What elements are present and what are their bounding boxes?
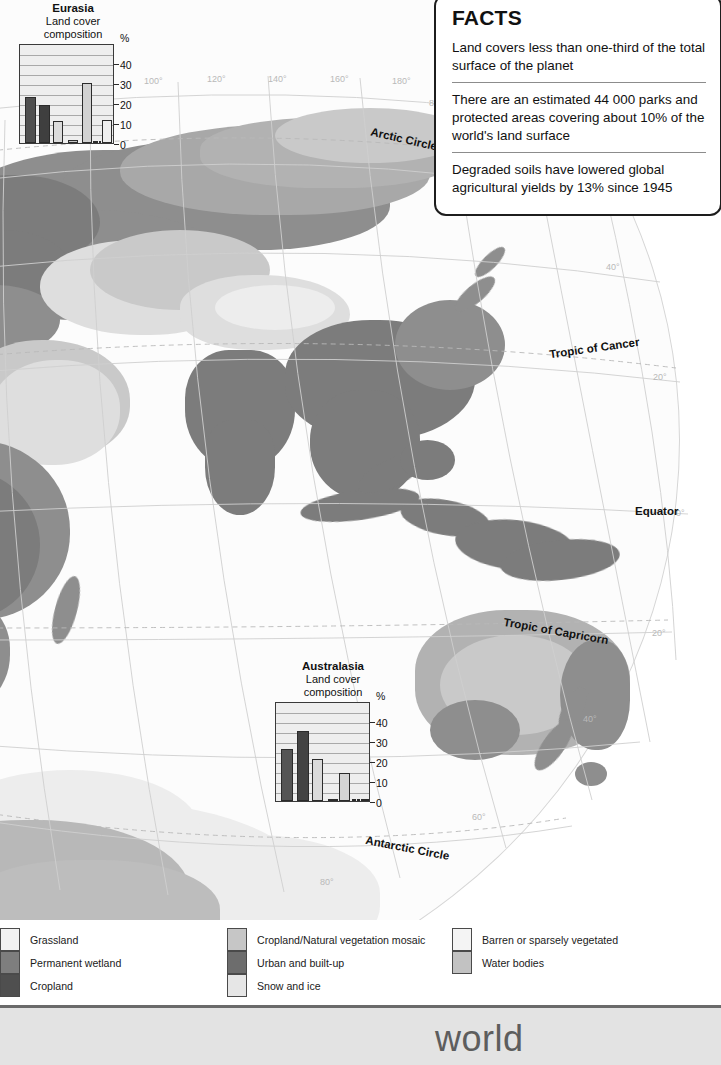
chart-eurasia-tick-40: 40 bbox=[120, 60, 132, 71]
bar-snow bbox=[352, 799, 356, 801]
chart-eurasia-subtitle-1: Land cover bbox=[12, 15, 134, 28]
bar-grassland bbox=[281, 749, 293, 801]
bar-wetland bbox=[39, 105, 50, 143]
page-root: 100° 120° 140° 160° 180° 80° 40° 20° 0° … bbox=[0, 0, 721, 1065]
bar-grassland bbox=[25, 97, 36, 143]
lon-label-100: 100° bbox=[144, 76, 163, 86]
legend-swatch-cropland-mosaic bbox=[227, 928, 247, 951]
chart-eurasia-tick-20: 20 bbox=[120, 100, 132, 111]
legend-swatch-cropland bbox=[0, 974, 20, 997]
bar-cropland bbox=[53, 121, 63, 143]
chart-australasia-tick-30: 30 bbox=[376, 738, 388, 749]
bar-mosaic bbox=[68, 140, 78, 143]
chart-eurasia-unit: % bbox=[120, 32, 129, 44]
chart-australasia-bars bbox=[276, 703, 369, 801]
lon-label-180: 180° bbox=[392, 76, 411, 86]
chart-australasia-title: Australasia bbox=[268, 660, 398, 673]
fact-item-2: There are an estimated 44 000 parks and … bbox=[452, 91, 706, 144]
chart-eurasia: Eurasia Land cover composition bbox=[12, 2, 134, 144]
chart-australasia: Australasia Land cover composition bbox=[268, 660, 398, 802]
legend-swatch-barren bbox=[452, 928, 472, 951]
bar-urban bbox=[82, 83, 92, 143]
lat-label-20s: 20° bbox=[652, 628, 666, 638]
page-footer: world bbox=[0, 1005, 721, 1065]
lat-label-20n: 20° bbox=[653, 372, 667, 382]
legend-item-water-bodies[interactable]: Water bodies bbox=[452, 951, 712, 974]
chart-australasia-tick-0: 0 bbox=[376, 798, 382, 809]
legend-label-barren: Barren or sparsely vegetated bbox=[482, 934, 618, 946]
chart-eurasia-tick-30: 30 bbox=[120, 80, 132, 91]
bar-urban bbox=[339, 773, 350, 801]
lat-label-40s: 40° bbox=[583, 714, 597, 724]
chart-australasia-tick-20: 20 bbox=[376, 758, 388, 769]
chart-australasia-subtitle-1: Land cover bbox=[268, 673, 398, 686]
legend-column-3: Barren or sparsely vegetated Water bodie… bbox=[452, 928, 712, 974]
chart-eurasia-tick-0: 0 bbox=[120, 140, 126, 151]
chart-eurasia-title: Eurasia bbox=[12, 2, 134, 15]
legend-label-grassland: Grassland bbox=[30, 934, 78, 946]
footer-word: world bbox=[435, 1018, 524, 1060]
legend-swatch-snow-and-ice bbox=[227, 974, 247, 997]
map-legend: Grassland Permanent wetland Cropland Cro… bbox=[0, 920, 721, 1005]
legend-label-water-bodies: Water bodies bbox=[482, 957, 544, 969]
legend-label-cropland-mosaic: Cropland/Natural vegetation mosaic bbox=[257, 934, 425, 946]
facts-divider-2 bbox=[452, 152, 706, 153]
legend-swatch-urban bbox=[227, 951, 247, 974]
legend-item-urban[interactable]: Urban and built-up bbox=[227, 951, 452, 974]
chart-eurasia-tick-10: 10 bbox=[120, 120, 132, 131]
legend-swatch-grassland bbox=[0, 928, 20, 951]
legend-item-barren[interactable]: Barren or sparsely vegetated bbox=[452, 928, 712, 951]
bar-barren bbox=[357, 799, 360, 801]
legend-item-cropland[interactable]: Cropland bbox=[0, 974, 210, 997]
bar-wetland bbox=[297, 731, 309, 801]
legend-item-cropland-mosaic[interactable]: Cropland/Natural vegetation mosaic bbox=[227, 928, 452, 951]
legend-swatch-permanent-wetland bbox=[0, 951, 20, 974]
legend-column-2: Cropland/Natural vegetation mosaic Urban… bbox=[227, 928, 452, 997]
bar-cropland bbox=[312, 759, 323, 801]
chart-australasia-tick-10: 10 bbox=[376, 778, 388, 789]
bar-water bbox=[361, 799, 370, 801]
lat-label-80s: 80° bbox=[320, 877, 334, 887]
legend-item-grassland[interactable]: Grassland bbox=[0, 928, 210, 951]
legend-swatch-water-bodies bbox=[452, 951, 472, 974]
bar-mosaic bbox=[328, 799, 338, 801]
label-equator: Equator bbox=[635, 505, 678, 517]
lat-label-40n: 40° bbox=[606, 262, 620, 272]
chart-eurasia-bars bbox=[20, 45, 113, 143]
fact-item-3: Degraded soils have lowered global agric… bbox=[452, 161, 706, 196]
bar-barren bbox=[99, 141, 101, 143]
chart-eurasia-subtitle-2: composition bbox=[12, 28, 134, 41]
legend-column-1: Grassland Permanent wetland Cropland bbox=[0, 928, 210, 997]
facts-divider-1 bbox=[452, 82, 706, 83]
bar-water bbox=[102, 120, 112, 143]
chart-eurasia-plot bbox=[19, 44, 114, 144]
legend-label-cropland: Cropland bbox=[30, 980, 73, 992]
world-map[interactable]: 100° 120° 140° 160° 180° 80° 40° 20° 0° … bbox=[0, 0, 721, 920]
chart-australasia-plot bbox=[275, 702, 370, 802]
legend-label-permanent-wetland: Permanent wetland bbox=[30, 957, 121, 969]
lon-label-140: 140° bbox=[268, 74, 287, 84]
lon-label-120: 120° bbox=[207, 74, 226, 84]
lat-label-60s: 60° bbox=[472, 812, 486, 822]
legend-item-snow-and-ice[interactable]: Snow and ice bbox=[227, 974, 452, 997]
legend-label-urban: Urban and built-up bbox=[257, 957, 344, 969]
lon-label-160: 160° bbox=[330, 74, 349, 84]
fact-item-1: Land covers less than one-third of the t… bbox=[452, 39, 706, 74]
facts-heading: FACTS bbox=[452, 6, 706, 30]
chart-australasia-unit: % bbox=[376, 690, 385, 702]
legend-label-snow-and-ice: Snow and ice bbox=[257, 980, 321, 992]
bar-snow bbox=[93, 141, 98, 143]
facts-panel: FACTS Land covers less than one-third of… bbox=[434, 0, 721, 216]
chart-australasia-tick-40: 40 bbox=[376, 718, 388, 729]
legend-item-permanent-wetland[interactable]: Permanent wetland bbox=[0, 951, 210, 974]
